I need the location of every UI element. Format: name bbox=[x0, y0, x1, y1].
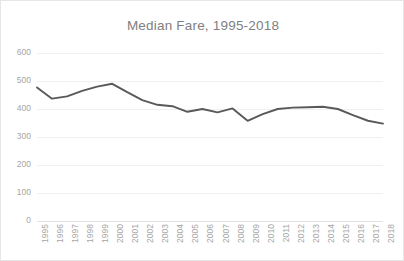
y-axis-tick-label: 600 bbox=[3, 48, 31, 57]
x-axis-tick-label: 1999 bbox=[101, 224, 110, 243]
x-axis-tick-label: 2015 bbox=[342, 224, 351, 243]
axis-baseline bbox=[37, 221, 383, 222]
x-axis-tick-label: 2016 bbox=[357, 224, 366, 243]
y-axis-tick-label: 500 bbox=[3, 76, 31, 85]
plot-area bbox=[37, 53, 383, 221]
y-axis-tick-label: 200 bbox=[3, 160, 31, 169]
x-axis-tick-label: 1997 bbox=[71, 224, 80, 243]
x-axis-tick-label: 2011 bbox=[282, 224, 291, 242]
x-axis-tick-label: 2007 bbox=[222, 224, 231, 243]
y-axis-tick-label: 400 bbox=[3, 104, 31, 113]
x-axis-tick-label: 1998 bbox=[86, 224, 95, 243]
chart-container: Median Fare, 1995-2018 01002003004005006… bbox=[0, 0, 404, 261]
x-axis-tick-label: 2005 bbox=[191, 224, 200, 243]
x-axis-tick-label: 2018 bbox=[387, 224, 396, 243]
x-axis-tick-label: 2014 bbox=[327, 224, 336, 243]
x-axis-tick-label: 2010 bbox=[267, 224, 276, 243]
x-axis-tick-label: 2008 bbox=[237, 224, 246, 243]
x-axis-tick-label: 2003 bbox=[161, 224, 170, 243]
x-axis-tick-label: 2006 bbox=[206, 224, 215, 243]
x-axis-tick-label: 1995 bbox=[41, 224, 50, 243]
x-axis-tick-labels: 1995199619971998199920002001200220032004… bbox=[37, 224, 383, 261]
x-axis-tick-label: 2001 bbox=[131, 224, 140, 243]
x-axis-tick-label: 2002 bbox=[146, 224, 155, 243]
x-axis-tick-label: 2013 bbox=[312, 224, 321, 243]
y-axis-tick-label: 100 bbox=[3, 188, 31, 197]
y-axis-tick-label: 0 bbox=[3, 216, 31, 225]
x-axis-tick-label: 2004 bbox=[176, 224, 185, 243]
x-axis-tick-label: 2012 bbox=[297, 224, 306, 243]
series-line-median-fare bbox=[37, 84, 383, 124]
x-axis-tick-label: 1996 bbox=[56, 224, 65, 243]
x-axis-tick-label: 2009 bbox=[252, 224, 261, 243]
y-axis-tick-label: 300 bbox=[3, 132, 31, 141]
x-axis-tick-label: 2017 bbox=[372, 224, 381, 243]
series-line-chart bbox=[37, 53, 383, 221]
x-axis-tick-label: 2000 bbox=[116, 224, 125, 243]
